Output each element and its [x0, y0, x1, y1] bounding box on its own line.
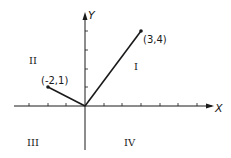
quadrant-label-IV: IV — [124, 137, 136, 148]
coordinate-plane-diagram: (3,4) (-2,1) X Y I II III IV — [0, 0, 231, 158]
x-axis-arrow-icon — [206, 104, 214, 109]
quadrant-label-I: I — [134, 61, 138, 72]
point-3-4 — [139, 29, 143, 33]
point-label-neg2-1: (-2,1) — [41, 75, 68, 86]
quadrant-label-III: III — [27, 137, 39, 148]
y-axis — [83, 12, 89, 150]
y-axis-label: Y — [88, 9, 96, 22]
x-axis-label: X — [214, 102, 223, 115]
point-label-3-4: (3,4) — [143, 34, 167, 45]
x-axis — [14, 103, 214, 109]
y-axis-arrow-icon — [83, 12, 88, 20]
quadrant-label-II: II — [29, 55, 37, 66]
vector-neg2-1 — [46, 85, 85, 106]
